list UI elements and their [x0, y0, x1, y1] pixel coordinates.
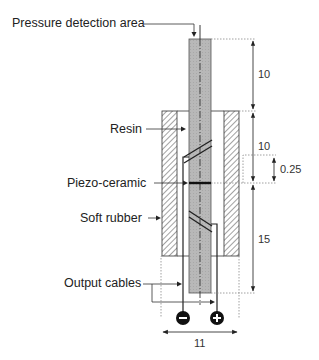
label-soft-rubber: Soft rubber	[80, 212, 142, 225]
label-pressure-detection-area: Pressure detection area	[12, 17, 145, 30]
label-piezo-ceramic: Piezo-ceramic	[67, 177, 146, 190]
positive-terminal-icon	[210, 311, 224, 325]
extension-lines	[161, 39, 276, 318]
negative-terminal-icon	[176, 311, 190, 325]
dimension-middle-length: 10	[258, 141, 270, 152]
dimension-bottom-length: 15	[258, 234, 270, 245]
dimension-width: 11	[194, 338, 205, 349]
label-resin: Resin	[110, 123, 142, 136]
dimension-piezo-offset: 0.25	[280, 164, 301, 175]
sensor-diagram	[0, 0, 319, 360]
dimension-lines	[163, 41, 274, 332]
label-output-cables: Output cables	[64, 277, 141, 290]
sensor-rod	[184, 25, 212, 305]
dimension-top-length: 10	[258, 69, 270, 80]
